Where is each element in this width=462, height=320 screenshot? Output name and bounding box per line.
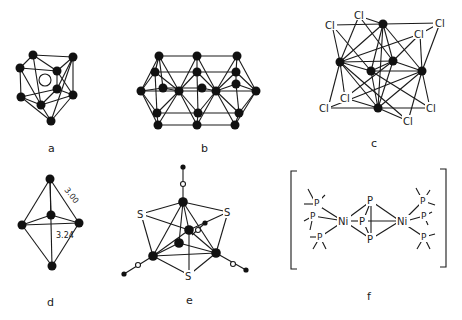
p-label: P (359, 216, 365, 227)
s-label: S (137, 209, 143, 220)
caption-b: b (201, 142, 208, 155)
ni-label: Ni (338, 216, 348, 227)
s-label: S (224, 207, 230, 218)
panel-d-structure: 3.00 3.24 (18, 175, 84, 271)
panel-f-structure: Ni Ni P P P P P P P P P (291, 169, 446, 269)
p-label: P (367, 234, 373, 245)
p-label: P (367, 195, 373, 206)
caption-c: c (371, 137, 377, 150)
p-label: P (310, 211, 316, 221)
panel-c-structure: Cl Cl Cl Cl Cl Cl Cl Cl (318, 9, 446, 127)
p-label: P (317, 232, 323, 242)
right-bracket (440, 169, 446, 267)
cl-label: Cl (319, 103, 329, 114)
ni-label: Ni (397, 216, 407, 227)
figure-canvas: a (0, 0, 462, 320)
caption-a: a (48, 142, 55, 155)
cl-label: Cl (403, 116, 413, 127)
panel-e-structure: S S S (121, 164, 248, 282)
cl-label: Cl (354, 10, 364, 21)
p-label: P (420, 196, 426, 206)
caption-f: f (367, 290, 372, 303)
caption-d: d (47, 296, 54, 309)
s-label: S (185, 271, 191, 282)
panel-a-structure (16, 51, 78, 126)
cl-label: Cl (426, 103, 436, 114)
p-label: P (421, 232, 427, 242)
caption-e: e (186, 294, 193, 307)
p-label: P (421, 211, 427, 221)
cl-label: Cl (340, 93, 350, 104)
cl-label: Cl (325, 20, 335, 31)
p-label: P (314, 198, 320, 208)
panel-b-structure (137, 52, 261, 130)
cl-label: Cl (414, 29, 424, 40)
cl-label: Cl (435, 18, 445, 29)
left-bracket (291, 171, 297, 269)
distance-label-324: 3.24 (56, 231, 74, 240)
